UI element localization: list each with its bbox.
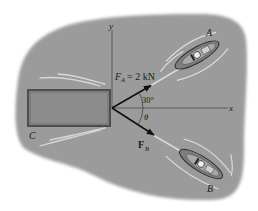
diagram-svg: y x C A B F A = 2 kN F B 30° θ bbox=[0, 0, 258, 211]
force-a-value: = 2 kN bbox=[127, 71, 155, 82]
angle-theta-label: θ bbox=[144, 112, 148, 122]
barge-label-c: C bbox=[29, 130, 36, 141]
angle-30-label: 30° bbox=[142, 95, 154, 105]
force-a-subscript: A bbox=[120, 76, 125, 83]
boat-label-b: B bbox=[207, 183, 213, 194]
force-a-label: F A = 2 kN bbox=[114, 71, 155, 83]
x-axis-label: x bbox=[228, 103, 233, 113]
y-axis-label: y bbox=[108, 21, 113, 31]
barge-c bbox=[27, 89, 111, 127]
force-b-symbol: F bbox=[138, 139, 144, 150]
force-b-subscript: B bbox=[145, 145, 149, 152]
boat-label-a: A bbox=[205, 27, 213, 38]
force-diagram: y x C A B F A = 2 kN F B 30° θ bbox=[0, 0, 258, 211]
